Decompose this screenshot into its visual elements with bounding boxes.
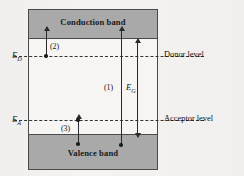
transition-3-label: (3) (61, 124, 70, 133)
valence-band-region: Valence band (29, 134, 157, 169)
band-gap-arrow (137, 42, 138, 134)
transition-1-origin-dot (119, 143, 122, 146)
transition-2-origin-dot (44, 54, 47, 57)
acceptor-level-text: Acceptor level (164, 114, 213, 123)
energy-acceptor-symbol: EA (12, 114, 21, 126)
figure-canvas: Conduction band Valence band Donor level… (0, 0, 244, 176)
conduction-band-region: Conduction band (29, 10, 157, 39)
band-gap-label: EG (126, 82, 136, 94)
transition-3-origin-dot (76, 142, 79, 145)
energy-donor-symbol: ED (12, 50, 22, 62)
donor-level-text: Donor level (164, 50, 204, 59)
transition-arrow-3 (78, 118, 79, 144)
valence-band-label: Valence band (29, 148, 157, 158)
transition-arrow-1 (121, 30, 122, 145)
energy-acceptor-symbol-sub: A (17, 119, 21, 126)
energy-donor-symbol-sub: D (17, 55, 21, 62)
transition-1-label: (1) (104, 83, 113, 92)
band-gap-symbol-sub: G (131, 87, 135, 94)
transition-arrow-2 (46, 30, 47, 57)
transition-2-label: (2) (50, 42, 59, 51)
transition-3-end-dot (76, 118, 79, 121)
band-diagram-frame: Conduction band Valence band (28, 9, 158, 170)
